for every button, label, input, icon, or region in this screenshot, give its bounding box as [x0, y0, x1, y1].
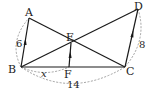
- label-c: C: [126, 65, 134, 78]
- label-b: B: [8, 63, 16, 76]
- parallel-arrow-ef-icon: [69, 51, 72, 58]
- measure-bc: 14: [67, 79, 80, 90]
- parallel-arrow-dc-icon: [130, 30, 133, 38]
- measure-bf: x: [41, 68, 47, 79]
- segment-bd: [21, 9, 138, 67]
- label-d: D: [134, 0, 143, 13]
- measure-dc: 8: [139, 39, 145, 50]
- segment-ac: [29, 18, 125, 67]
- label-a: A: [24, 6, 34, 19]
- measure-ab: 6: [16, 38, 22, 49]
- label-e: E: [66, 31, 74, 44]
- geometry-diagram: A B C D E F 6 8 x 14: [0, 0, 150, 94]
- segment-dc: [125, 9, 138, 67]
